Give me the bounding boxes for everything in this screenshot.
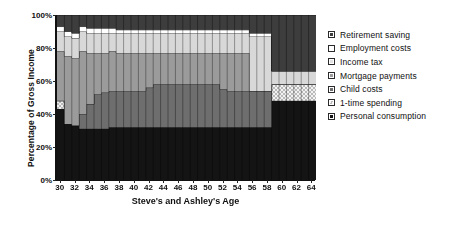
legend-swatch-icon (328, 99, 335, 106)
legend-label: Employment costs (340, 43, 411, 53)
legend-item[interactable]: Employment costs (328, 42, 454, 56)
x-axis-tick-labels: 303234363840424446485052545658606264 (0, 183, 458, 197)
stacked-area-chart: Percentage of Gross Income 0%20%40%60%80… (0, 0, 458, 229)
legend-label: Mortgage payments (340, 71, 417, 81)
y-tickmark (53, 81, 56, 82)
legend-item[interactable]: Mortgage payments (328, 69, 454, 83)
legend-item[interactable]: Personal consumption (328, 110, 454, 124)
legend-swatch-icon (328, 72, 335, 79)
x-tick-label: 48 (188, 183, 197, 192)
x-tick-label: 62 (292, 183, 301, 192)
legend-label: 1-time spending (340, 98, 402, 108)
y-tickmark (53, 48, 56, 49)
y-tickmark (53, 147, 56, 148)
x-tick-label: 30 (55, 183, 64, 192)
x-tick-label: 54 (233, 183, 242, 192)
legend-item[interactable]: 1-time spending (328, 96, 454, 110)
legend-swatch-icon (328, 58, 335, 65)
legend-label: Personal consumption (340, 111, 426, 121)
chart-legend: Retirement savingEmployment costsIncome … (328, 28, 454, 123)
x-tick-label: 34 (85, 183, 94, 192)
x-tick-label: 64 (307, 183, 316, 192)
legend-swatch-icon (328, 113, 335, 120)
x-tick-label: 36 (100, 183, 109, 192)
legend-item[interactable]: Retirement saving (328, 28, 454, 42)
legend-item[interactable]: Income tax (328, 55, 454, 69)
x-tick-label: 40 (129, 183, 138, 192)
x-tick-label: 60 (277, 183, 286, 192)
y-tick-label: 80% (36, 44, 52, 53)
legend-label: Income tax (340, 57, 383, 67)
x-tick-label: 42 (144, 183, 153, 192)
plot-area (56, 15, 316, 180)
y-tick-label: 60% (36, 77, 52, 86)
x-tick-label: 38 (114, 183, 123, 192)
legend-swatch-icon (328, 86, 335, 93)
x-tick-label: 46 (174, 183, 183, 192)
legend-label: Child costs (340, 84, 383, 94)
x-tick-label: 58 (262, 183, 271, 192)
y-tick-label: 20% (36, 143, 52, 152)
y-tickmark (53, 15, 56, 16)
x-tick-label: 56 (248, 183, 257, 192)
legend-swatch-icon (328, 45, 335, 52)
y-tick-label: 40% (36, 110, 52, 119)
x-tick-label: 52 (218, 183, 227, 192)
y-tickmark (53, 180, 56, 181)
y-tick-label: 100% (32, 11, 52, 20)
legend-label: Retirement saving (340, 30, 410, 40)
y-tickmark (53, 114, 56, 115)
x-tick-label: 50 (203, 183, 212, 192)
x-axis-title: Steve's and Ashley's Age (56, 196, 315, 206)
x-tick-label: 44 (159, 183, 168, 192)
legend-item[interactable]: Child costs (328, 82, 454, 96)
x-tick-label: 32 (70, 183, 79, 192)
plot-canvas (57, 15, 316, 180)
legend-swatch-icon (328, 31, 335, 38)
